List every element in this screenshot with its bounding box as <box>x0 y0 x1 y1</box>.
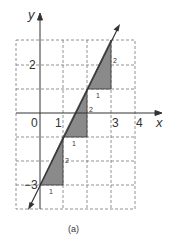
y-axis-label: y <box>27 7 36 22</box>
x-tick-1: 1 <box>55 116 62 130</box>
x-tick-0: 0 <box>31 116 38 130</box>
run-label-2: 1 <box>72 140 76 147</box>
y-tick-neg3: −3 <box>24 178 38 192</box>
slope-triangle-3 <box>87 40 111 89</box>
run-label-3: 1 <box>96 92 100 99</box>
line-arrow-top-icon <box>114 24 121 32</box>
rise-label-3: 2 <box>113 57 117 64</box>
line-y-2x-minus-3 <box>28 24 120 210</box>
x-tick-3: 3 <box>112 116 119 130</box>
y-axis-arrow-icon <box>38 13 43 20</box>
rise-label-1: 2 <box>65 157 69 164</box>
figure-caption: (a) <box>68 224 79 234</box>
graph: y x 0 1 3 4 2 −3 1 2 1 2 1 2 (a) <box>0 0 176 241</box>
run-label-1: 1 <box>49 188 53 195</box>
y-tick-2: 2 <box>29 58 36 72</box>
x-axis-label: x <box>155 115 163 130</box>
rise-label-2: 2 <box>89 106 93 113</box>
x-tick-4: 4 <box>136 116 143 130</box>
